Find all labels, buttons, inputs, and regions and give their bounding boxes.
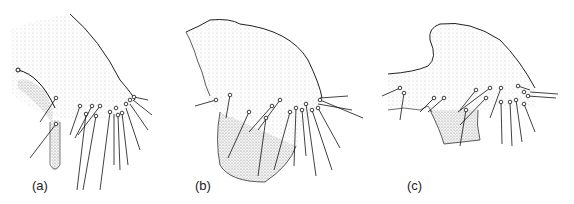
panel-a-drawing xyxy=(10,14,152,190)
panel-b-drawing xyxy=(186,20,363,183)
illustration xyxy=(0,0,574,204)
panel-label-b: (b) xyxy=(195,178,211,193)
panel-c-drawing xyxy=(382,23,558,146)
panel-label-a: (a) xyxy=(32,178,48,193)
panel-label-c: (c) xyxy=(407,178,422,193)
figure: (a) (b) (c) xyxy=(0,0,574,204)
